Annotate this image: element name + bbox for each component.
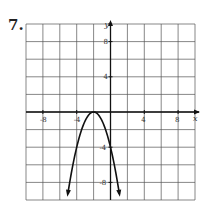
curve-arrow-icon: [66, 190, 71, 197]
y-tick-label: -4: [100, 144, 107, 152]
coordinate-graph: xy-8-44884-4-8: [0, 0, 203, 209]
x-tick-label: -4: [74, 116, 81, 124]
x-axis-label: x: [193, 114, 198, 123]
y-tick-label: 4: [104, 73, 109, 81]
x-tick-label: 8: [175, 116, 179, 124]
x-tick-label: 4: [141, 116, 146, 124]
y-tick-label: -8: [100, 179, 107, 187]
curve-arrow-icon: [116, 190, 121, 197]
axes: [26, 20, 200, 200]
tick-labels: xy-8-44884-4-8: [40, 20, 198, 187]
x-tick-label: -8: [40, 116, 47, 124]
y-axis-label: y: [104, 20, 110, 29]
y-tick-label: 8: [104, 38, 108, 46]
